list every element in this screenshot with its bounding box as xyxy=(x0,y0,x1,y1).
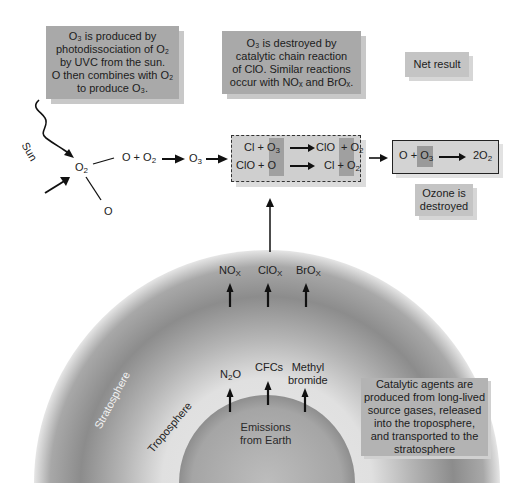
source-methyl-bromide: Methyl bromide xyxy=(288,361,328,387)
oxygen-atom-label: O xyxy=(104,205,113,217)
net-reaction-box: O + O3 2O2 xyxy=(392,140,499,174)
catalyst-nox: NOX xyxy=(219,264,241,276)
catalyst-clox: ClOX xyxy=(258,264,282,276)
earth-emissions-label: Emissions from Earth xyxy=(240,421,291,447)
catalytic-cycle-box: Cl + O3 ClO + O2 ClO + O Cl + O2 xyxy=(231,135,361,182)
catalyst-brox: BrOX xyxy=(296,264,321,276)
net-result-note: Net result xyxy=(405,52,469,77)
o2-molecule-label: O2 xyxy=(75,161,88,173)
destruction-note: O₃ is destroyed by catalytic chain react… xyxy=(222,31,361,94)
cycle-reaction-1: Cl + O3 xyxy=(244,141,280,153)
o-plus-o2-label: O + O2 xyxy=(122,151,156,163)
ozone-destroyed-note: Ozone is destroyed xyxy=(415,184,473,216)
catalytic-agents-note: Catalytic agents are produced from long-… xyxy=(361,378,488,456)
source-cfcs: CFCs xyxy=(255,361,283,373)
o3-label: O3 xyxy=(189,152,202,164)
source-n2o: N2O xyxy=(220,368,241,380)
cycle-reaction-2: ClO + O xyxy=(236,159,276,171)
production-note: O₃ is produced by photodissociation of O… xyxy=(46,26,179,99)
